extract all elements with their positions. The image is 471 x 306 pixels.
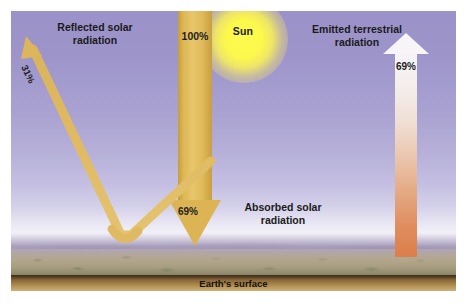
reflected-beam-path	[33, 49, 211, 235]
emitted-terrestrial-shaft	[395, 53, 417, 257]
reflected-solar-label: Reflected solar radiation	[25, 21, 165, 47]
emitted-terrestrial-label-line1: Emitted terrestrial	[312, 23, 402, 35]
earth-surface-label: Earth's surface	[11, 278, 456, 289]
energy-balance-figure: Sun 100% 69% Absorbed solar radiation	[0, 0, 471, 306]
emitted-terrestrial-label: Emitted terrestrial radiation	[287, 23, 427, 49]
emitted-terrestrial-label-line2: radiation	[335, 36, 379, 48]
illustration-plate: Sun 100% 69% Absorbed solar radiation	[11, 11, 456, 291]
reflected-solar-label-line2: radiation	[73, 34, 117, 46]
emitted-terrestrial-value: 69%	[387, 61, 425, 72]
reflected-solar-label-line1: Reflected solar	[57, 21, 132, 33]
